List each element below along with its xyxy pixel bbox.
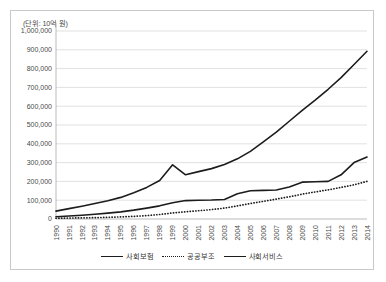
x-axis-tick-label: 1994	[104, 225, 111, 241]
legend-swatch-icon	[162, 256, 184, 257]
x-axis-tick-labels: 1990199119921993199419951996199719981999…	[53, 225, 371, 241]
x-axis-tick-label: 2011	[325, 225, 332, 240]
series-line-사회보험	[56, 51, 367, 211]
legend-item[interactable]: 사회서비스	[224, 251, 283, 261]
x-axis-tick-label: 2008	[286, 225, 293, 241]
x-axis-tick-label: 2007	[273, 225, 280, 241]
y-axis-tick-label: 100,000	[27, 197, 52, 204]
x-axis-tick-label: 2005	[247, 225, 254, 241]
x-axis-tick-label: 2000	[182, 225, 189, 241]
x-axis-tick-label: 2001	[195, 225, 202, 241]
x-axis-tick-label: 1997	[143, 225, 150, 241]
y-axis-tick-label: 700,000	[27, 84, 52, 91]
y-axis-tick-label: 600,000	[27, 103, 52, 110]
y-axis-tick-label: 200,000	[27, 178, 52, 185]
line-chart-plot: 0100,000200,000300,000400,000500,000600,…	[11, 11, 375, 271]
x-axis-tick-label: 2012	[338, 225, 345, 241]
legend-label: 공공부조	[187, 251, 214, 261]
y-axis-tick-label: 400,000	[27, 140, 52, 147]
x-axis-tick-label: 1990	[53, 225, 60, 241]
x-axis-tick-label: 1999	[169, 225, 176, 241]
y-axis-tick-labels: 0100,000200,000300,000400,000500,000600,…	[21, 27, 52, 222]
y-axis-tick-label: 900,000	[27, 46, 52, 53]
x-axis-tick-label: 1992	[79, 225, 86, 241]
x-axis-tick-label: 2010	[312, 225, 319, 241]
y-axis-tick-label: 500,000	[27, 121, 52, 128]
x-axis-tick-label: 2003	[221, 225, 228, 241]
x-axis-tick-label: 1993	[91, 225, 98, 241]
x-axis-tick-label: 1995	[117, 225, 124, 241]
x-axis-tick-label: 1998	[156, 225, 163, 241]
x-axis-tick-label: 2014	[364, 225, 371, 241]
y-axis-tick-label: 300,000	[27, 159, 52, 166]
series-line-사회서비스	[56, 157, 367, 217]
legend-label: 사회보험	[126, 251, 153, 261]
x-axis-tick-label: 2004	[234, 225, 241, 241]
y-axis-tick-label: 0	[48, 215, 52, 222]
x-axis-tick-label: 2002	[208, 225, 215, 241]
legend-label: 사회서비스	[249, 251, 283, 261]
legend-swatch-icon	[224, 256, 246, 257]
chart-legend: 사회보험공공부조사회서비스	[11, 251, 373, 261]
gridlines-group	[56, 23, 367, 219]
y-axis-tick-label: 1,000,000	[21, 27, 52, 34]
x-axis-tick-label: 2006	[260, 225, 267, 241]
x-axis-tick-label: 1996	[130, 225, 137, 241]
chart-container: (단위: 10억 원) 0100,000200,000300,000400,00…	[10, 10, 374, 270]
x-axis-tick-label: 1991	[66, 225, 73, 241]
legend-item[interactable]: 사회보험	[101, 251, 153, 261]
legend-swatch-icon	[101, 256, 123, 257]
x-axis-tick-label: 2013	[351, 225, 358, 241]
y-axis-tick-label: 800,000	[27, 65, 52, 72]
legend-item[interactable]: 공공부조	[162, 251, 214, 261]
series-group	[56, 51, 367, 218]
x-axis-tick-label: 2009	[299, 225, 306, 241]
